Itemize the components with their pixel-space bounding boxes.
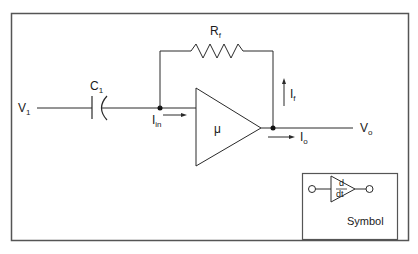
feedback-wire-left (160, 51, 191, 108)
feedback-wire-right (243, 51, 273, 128)
symbol-caption: Symbol (347, 215, 384, 227)
v1-label: V1 (18, 101, 31, 117)
symbol-output-terminal (366, 186, 373, 193)
c1-label: C1 (90, 79, 104, 95)
rf-label: Rf (210, 24, 222, 40)
output-current-arrow (268, 135, 295, 139)
symbol-numerator: d (339, 178, 344, 188)
if-label: If (290, 87, 296, 103)
opamp-triangle (196, 88, 261, 166)
input-current-arrow (163, 113, 187, 117)
symbol-denominator: dt (336, 189, 344, 199)
resistor-rf (191, 44, 243, 58)
circuit-diagram: V1 C1 Rf If Iin μ Io Vo (0, 0, 418, 254)
vo-label: Vo (360, 121, 373, 137)
iin-label: Iin (152, 113, 162, 129)
feedback-current-arrow (282, 78, 286, 106)
symbol-input-terminal (309, 186, 316, 193)
gain-mu-label: μ (214, 122, 221, 136)
symbol-box: d dt Symbol (303, 174, 398, 240)
io-label: Io (300, 130, 308, 146)
output-junction-dot (271, 126, 276, 131)
